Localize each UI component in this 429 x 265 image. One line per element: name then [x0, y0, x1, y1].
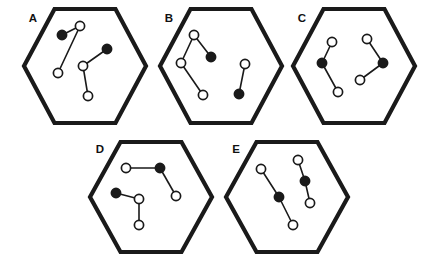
node-d3-open: [171, 191, 180, 200]
hexagon-outline-d: [90, 142, 212, 252]
panel-label-b: B: [165, 12, 173, 24]
node-c2-filled: [317, 58, 326, 67]
node-d6-open: [134, 220, 143, 229]
node-a4-open: [78, 61, 87, 70]
node-c5-filled: [378, 58, 387, 67]
node-e6-open: [305, 198, 314, 207]
node-b4-open: [198, 90, 207, 99]
node-a6-open: [83, 91, 92, 100]
node-d4-filled: [111, 188, 120, 197]
node-a1-filled: [57, 30, 66, 39]
panel-label-e: E: [232, 143, 240, 155]
node-e1-open: [256, 164, 265, 173]
node-b5-open: [240, 59, 249, 68]
hex-panel-e: E: [226, 142, 348, 252]
panel-label-c: C: [298, 12, 306, 24]
hexagon-panels-figure: ABCDE: [0, 0, 429, 265]
node-c1-open: [327, 37, 336, 46]
node-b1-open: [189, 30, 198, 39]
hex-panel-b: B: [160, 9, 282, 123]
node-e4-open: [293, 155, 302, 164]
node-c3-open: [333, 87, 342, 96]
node-a2-open: [75, 21, 84, 30]
panels-layer: ABCDE: [24, 9, 415, 252]
node-c4-open: [362, 34, 371, 43]
hex-panel-d: D: [90, 142, 212, 252]
hexagon-outline-e: [226, 142, 348, 252]
node-e3-open: [288, 220, 297, 229]
node-d5-open: [134, 194, 143, 203]
hexagon-outline-c: [293, 9, 415, 123]
node-e5-filled: [300, 176, 309, 185]
node-e2-filled: [274, 192, 283, 201]
node-b6-filled: [234, 89, 243, 98]
node-a3-open: [53, 68, 62, 77]
panel-label-a: A: [29, 12, 37, 24]
node-d2-filled: [155, 163, 164, 172]
panel-label-d: D: [96, 143, 104, 155]
hex-panel-a: A: [24, 9, 146, 123]
node-b2-filled: [206, 52, 215, 61]
figure-container: ABCDE: [0, 0, 429, 265]
node-b3-open: [176, 58, 185, 67]
node-a5-filled: [102, 44, 111, 53]
hex-panel-c: C: [293, 9, 415, 123]
node-c6-open: [355, 75, 364, 84]
node-d1-open: [121, 163, 130, 172]
